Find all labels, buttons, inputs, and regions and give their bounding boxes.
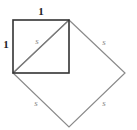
diagram: 1 1 s s s s	[0, 0, 137, 130]
label-left-side: 1	[3, 38, 9, 50]
label-big-lower-right: s	[102, 98, 106, 108]
diagonal-line	[13, 20, 69, 73]
label-top-side: 1	[38, 5, 44, 17]
label-diagonal: s	[35, 36, 39, 46]
label-big-lower-left: s	[34, 98, 38, 108]
label-big-upper-right: s	[102, 37, 106, 47]
